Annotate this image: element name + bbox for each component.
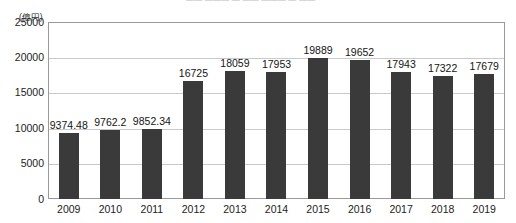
cut-off-title-text: —— ——— — —— ——— — ——: [186, 0, 422, 5]
x-axis-tick-label: 2011: [141, 203, 164, 215]
bar-value-label: 9762.2: [94, 117, 126, 128]
y-axis-tick-label: 25000: [0, 16, 44, 28]
bar-value-label: 17943: [387, 59, 416, 70]
bar[interactable]: [308, 58, 328, 199]
bar[interactable]: [59, 133, 79, 199]
bar-value-label: 9374.48: [50, 120, 88, 131]
bar-value-label: 17322: [428, 63, 457, 74]
x-axis-tick-label: 2009: [57, 203, 80, 215]
bar-slot: 19889: [297, 22, 339, 199]
bar-slot: 19652: [339, 22, 381, 199]
bar-slot: 17943: [380, 22, 422, 199]
y-axis-tick-label: 0: [0, 193, 44, 205]
bar[interactable]: [474, 74, 494, 199]
bar-slot: 17322: [422, 22, 464, 199]
x-axis-tick-label: 2018: [431, 203, 454, 215]
bar[interactable]: [183, 81, 203, 199]
bars-layer: 9374.489762.29852.3416725180591795319889…: [48, 22, 505, 199]
bar-value-label: 18059: [220, 58, 249, 69]
x-axis-tick-label: 2013: [223, 203, 246, 215]
bar-slot: 9374.48: [48, 22, 90, 199]
bar[interactable]: [350, 60, 370, 199]
bar-slot: 9852.34: [131, 22, 173, 199]
y-axis-tick-label: 10000: [0, 122, 44, 134]
bar-slot: 18059: [214, 22, 256, 199]
y-axis-tick-label: 20000: [0, 51, 44, 63]
bar[interactable]: [142, 129, 162, 199]
x-axis-labels: 2009201020112012201320142015201620172018…: [48, 203, 505, 219]
x-axis-tick-label: 2017: [389, 203, 412, 215]
x-axis-tick-label: 2012: [182, 203, 205, 215]
x-axis-tick-label: 2015: [306, 203, 329, 215]
bar-chart: —— ——— — —— ——— — —— (億円) 9374.489762.29…: [0, 0, 516, 223]
x-axis-tick-label: 2010: [99, 203, 122, 215]
bar-slot: 17679: [463, 22, 505, 199]
x-axis-tick-label: 2016: [348, 203, 371, 215]
y-axis-tick-label: 5000: [0, 157, 44, 169]
bar-value-label: 9852.34: [133, 116, 171, 127]
bar[interactable]: [433, 76, 453, 199]
bar-slot: 17953: [256, 22, 298, 199]
bar[interactable]: [100, 130, 120, 199]
bar[interactable]: [266, 72, 286, 199]
y-axis-tick-label: 15000: [0, 86, 44, 98]
bar[interactable]: [225, 71, 245, 199]
x-axis-tick-label: 2019: [473, 203, 496, 215]
x-axis-tick-label: 2014: [265, 203, 288, 215]
bar[interactable]: [391, 72, 411, 199]
bar-value-label: 17679: [470, 61, 499, 72]
bar-value-label: 16725: [179, 68, 208, 79]
bar-value-label: 19652: [345, 47, 374, 58]
bar-slot: 16725: [173, 22, 215, 199]
bar-value-label: 19889: [303, 45, 332, 56]
bar-value-label: 17953: [262, 59, 291, 70]
bar-slot: 9762.2: [90, 22, 132, 199]
